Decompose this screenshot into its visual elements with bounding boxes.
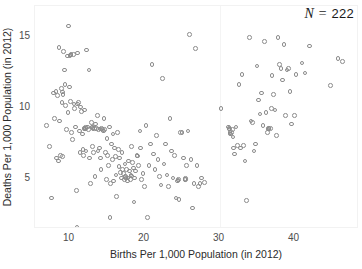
data-point [270,73,275,78]
data-point [63,103,68,108]
data-point [66,110,71,115]
data-point [241,143,246,148]
data-point [186,129,191,134]
data-point [91,126,96,131]
data-point [105,153,110,158]
data-point [276,35,281,40]
data-point [264,110,269,115]
data-point [250,120,255,125]
data-point [282,42,287,47]
data-point [84,48,89,53]
data-point [55,93,60,98]
data-point [105,136,110,141]
data-point [138,146,143,151]
data-point [74,188,79,193]
data-point [258,112,263,117]
data-point [153,167,158,172]
data-point [70,137,75,142]
data-point [237,82,242,87]
data-point [66,24,71,29]
data-point [286,66,291,71]
data-point [159,183,164,188]
data-point [219,106,224,111]
data-point [60,154,65,159]
data-point [145,215,150,220]
data-point [57,119,62,124]
data-point [67,85,72,90]
data-point [328,83,333,88]
data-point [189,157,194,162]
data-point [271,92,276,97]
data-point [107,125,112,130]
data-point [82,108,87,113]
data-point [172,153,177,158]
data-point [130,160,135,165]
data-point [180,130,185,135]
data-point [115,130,120,135]
sample-size-annotation: N = 222 [304,6,354,22]
data-point [261,123,266,128]
data-point [288,89,293,94]
data-point [166,184,171,189]
data-point [72,106,77,111]
data-point [240,72,245,77]
data-point [279,66,284,71]
data-point [95,113,100,118]
data-point [340,59,345,64]
data-point [283,113,288,118]
annotation-symbol: N [304,6,314,21]
data-point [56,159,61,164]
data-point [47,144,52,149]
data-point [157,174,162,179]
data-point [44,123,49,128]
data-point [75,225,80,228]
data-point [150,62,155,67]
data-point [193,46,198,51]
data-point [90,144,95,149]
data-point [259,91,264,96]
data-point [256,98,261,103]
data-point [83,125,88,130]
data-point [106,163,111,168]
x-axis-label: Births Per 1,000 Population (in 2012) [34,248,358,260]
data-point [147,163,152,168]
data-point [244,198,249,203]
data-point [181,156,186,161]
data-point [234,125,239,130]
data-point [102,116,107,121]
data-point [303,71,308,76]
x-tick-label: 10 [63,232,74,243]
data-point [141,171,146,176]
data-point [135,154,140,159]
x-tick-label: 20 [138,232,149,243]
data-point [97,146,102,151]
data-point [184,163,189,168]
data-point [168,116,173,121]
data-point [87,156,92,161]
y-axis-label: Deaths Per 1,000 Population (in 2012) [0,5,14,228]
data-point [69,130,74,135]
data-point [307,44,312,49]
data-point [231,135,236,140]
data-point [61,92,66,97]
data-point [247,35,252,40]
data-point [117,156,122,161]
data-point [148,142,153,147]
data-point [151,152,156,157]
data-point [187,32,192,37]
data-point [154,133,159,138]
data-point [266,126,271,131]
data-point [160,76,165,81]
data-point [232,152,237,157]
data-point [183,176,188,181]
data-point [292,113,297,118]
data-point [133,169,138,174]
data-point [280,78,285,83]
data-point [255,64,260,69]
data-point [142,184,147,189]
data-point [202,180,207,185]
data-point [177,197,182,202]
data-point [138,129,143,134]
data-point [144,123,149,128]
data-point [269,106,274,111]
